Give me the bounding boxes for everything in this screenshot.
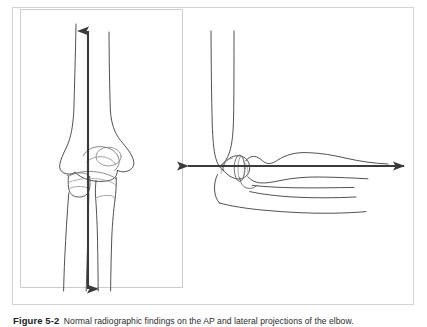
panel-ap-projection — [20, 9, 183, 288]
figure-caption: Figure 5-2 Normal radiographic findings … — [13, 313, 413, 327]
figure-page: Figure 5-2 Normal radiographic findings … — [0, 0, 427, 327]
figure-caption-label: Figure 5-2 — [13, 315, 59, 326]
figure-caption-text: Normal radiographic findings on the AP a… — [64, 316, 354, 326]
